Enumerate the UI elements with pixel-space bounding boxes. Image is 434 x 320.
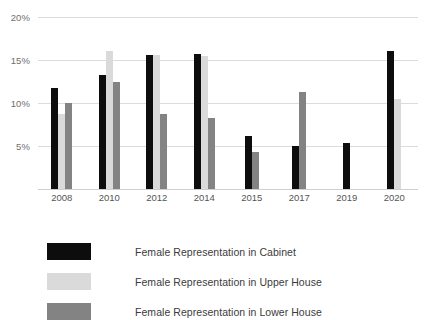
bar-group [51, 0, 72, 189]
x-axis-tick: 2017 [289, 192, 310, 203]
bar-lower-2017 [299, 92, 306, 189]
bar-upper-2008 [58, 114, 65, 189]
axis-baseline [38, 189, 418, 190]
bar-cabinet-2015 [245, 136, 252, 189]
legend-item-upper: Female Representation in Upper House [47, 268, 387, 295]
y-axis: 20% 15% 10% 5% [0, 0, 34, 200]
bar-cabinet-2020 [387, 51, 394, 189]
bar-cabinet-2017 [292, 146, 299, 189]
plot-area: 20% 15% 10% 5% 2008201020122014201520172… [0, 0, 434, 200]
bar-lower-2014 [208, 118, 215, 189]
y-axis-tick: 5% [16, 141, 30, 152]
bar-group [387, 0, 401, 189]
chart-legend: Female Representation in CabinetFemale R… [47, 238, 387, 320]
legend-item-cabinet: Female Representation in Cabinet [47, 238, 387, 265]
bar-lower-2012 [160, 114, 167, 189]
bar-cabinet-2010 [99, 75, 106, 189]
x-axis-tick: 2008 [51, 192, 72, 203]
bar-upper-2014 [201, 56, 208, 189]
y-axis-tick: 20% [11, 12, 30, 23]
bar-group [343, 0, 350, 189]
legend-swatch-lower-icon [47, 303, 91, 320]
bar-lower-2015 [252, 152, 259, 189]
bar-cabinet-2014 [194, 54, 201, 189]
x-axis-tick: 2014 [194, 192, 215, 203]
bar-group [194, 0, 215, 189]
bar-group [146, 0, 167, 189]
x-axis-tick: 2019 [336, 192, 357, 203]
legend-item-lower: Female Representation in Lower House [47, 298, 387, 320]
bar-chart: 20% 15% 10% 5% 2008201020122014201520172… [0, 0, 434, 320]
legend-label: Female Representation in Cabinet [135, 246, 296, 258]
x-axis-tick: 2012 [146, 192, 167, 203]
bar-group [292, 0, 306, 189]
legend-swatch-cabinet-icon [47, 243, 91, 260]
bar-group [99, 0, 120, 189]
x-axis: 20082010201220142015201720192020 [38, 192, 418, 212]
bar-upper-2012 [153, 55, 160, 189]
y-axis-tick: 10% [11, 98, 30, 109]
y-axis-tick: 15% [11, 55, 30, 66]
bar-lower-2010 [113, 82, 120, 190]
bar-cabinet-2008 [51, 88, 58, 189]
legend-swatch-upper-icon [47, 273, 91, 290]
x-axis-tick: 2020 [384, 192, 405, 203]
bars-layer [38, 0, 418, 189]
legend-label: Female Representation in Lower House [135, 306, 322, 318]
bar-lower-2008 [65, 103, 72, 189]
x-axis-tick: 2015 [241, 192, 262, 203]
bar-cabinet-2019 [343, 143, 350, 189]
x-axis-tick: 2010 [99, 192, 120, 203]
bar-group [245, 0, 259, 189]
bar-cabinet-2012 [146, 55, 153, 189]
bar-upper-2010 [106, 51, 113, 189]
bar-upper-2020 [394, 99, 401, 189]
legend-label: Female Representation in Upper House [135, 276, 322, 288]
